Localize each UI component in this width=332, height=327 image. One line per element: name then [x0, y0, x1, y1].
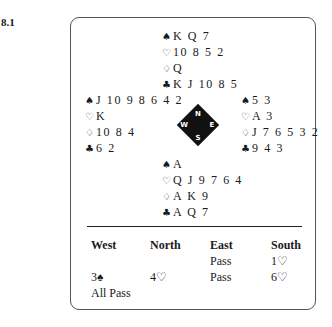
club-icon: ♣ — [85, 141, 96, 157]
west-hearts: ♡K — [85, 108, 183, 124]
club-icon: ♣ — [162, 205, 173, 221]
bid-header-west: West — [91, 238, 116, 253]
bid-header-east: East — [210, 238, 233, 253]
north-clubs: ♣K J 10 8 5 — [162, 76, 238, 92]
diamond-icon: ♢ — [85, 125, 96, 141]
north-hearts: ♡10 8 5 2 — [162, 44, 238, 60]
spade-icon: ♠ — [241, 93, 252, 109]
compass-east: E — [208, 121, 216, 129]
south-hearts: ♡Q J 9 7 6 4 — [162, 172, 243, 188]
diamond-icon: ♢ — [162, 189, 173, 205]
compass-south: S — [194, 134, 202, 142]
bid-r2-north: 4♡ — [150, 270, 167, 285]
problem-number: 8.1 — [1, 16, 15, 28]
east-diamonds: ♢J 7 6 5 3 2 — [241, 124, 319, 140]
east-spades: ♠5 3 — [241, 92, 319, 108]
west-spades: ♠J 10 9 8 6 4 2 — [85, 92, 183, 108]
west-diamonds: ♢10 8 4 — [85, 124, 183, 140]
diamond-icon: ♢ — [162, 61, 173, 77]
compass-west: W — [180, 121, 188, 129]
bid-header-north: North — [150, 238, 181, 253]
south-clubs: ♣A Q 7 — [162, 204, 243, 220]
bid-r2-east: Pass — [210, 270, 231, 285]
bid-r1-south: 1♡ — [271, 254, 288, 269]
east-hand: ♠5 3 ♡A 3 ♢J 7 6 5 3 2 ♣9 4 3 — [241, 92, 319, 156]
bid-r2-west: 3♠ — [91, 270, 103, 285]
bid-r3-west: All Pass — [91, 286, 131, 301]
bid-r2-south: 6♡ — [271, 270, 288, 285]
south-hand: ♠A ♡Q J 9 7 6 4 ♢A K 9 ♣A Q 7 — [162, 156, 243, 220]
heart-icon: ♡ — [85, 109, 96, 125]
west-hand: ♠J 10 9 8 6 4 2 ♡K ♢10 8 4 ♣6 2 — [85, 92, 183, 156]
compass-north: N — [194, 110, 202, 118]
diamond-icon: ♢ — [241, 125, 252, 141]
north-spades: ♠K Q 7 — [162, 28, 238, 44]
east-clubs: ♣9 4 3 — [241, 140, 319, 156]
heart-icon: ♡ — [241, 109, 252, 125]
club-icon: ♣ — [241, 141, 252, 157]
north-diamonds: ♢Q — [162, 60, 238, 76]
east-hearts: ♡A 3 — [241, 108, 319, 124]
spade-icon: ♠ — [85, 93, 96, 109]
heart-icon: ♡ — [162, 45, 173, 61]
heart-icon: ♡ — [162, 173, 173, 189]
bid-header-south: South — [271, 238, 301, 253]
club-icon: ♣ — [162, 77, 173, 93]
west-clubs: ♣6 2 — [85, 140, 183, 156]
south-diamonds: ♢A K 9 — [162, 188, 243, 204]
bid-r1-east: Pass — [210, 254, 231, 269]
north-hand: ♠K Q 7 ♡10 8 5 2 ♢Q ♣K J 10 8 5 — [162, 28, 238, 92]
bidding-divider — [87, 226, 302, 227]
south-spades: ♠A — [162, 156, 243, 172]
spade-icon: ♠ — [162, 157, 173, 173]
spade-icon: ♠ — [162, 29, 173, 45]
